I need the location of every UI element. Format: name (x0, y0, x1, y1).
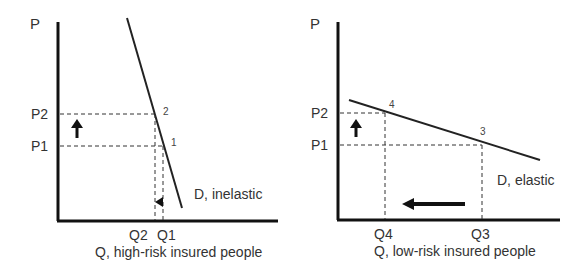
left-point-1-label: 1 (171, 137, 177, 149)
right-x-axis-label: Q, low-risk insured people (374, 243, 536, 259)
right-q3-label: Q3 (471, 226, 490, 242)
right-q4-label: Q4 (374, 226, 393, 242)
right-price-up-arrow-icon (350, 119, 362, 137)
right-panel-graphics (337, 22, 560, 220)
right-p1-label: P1 (311, 137, 328, 153)
right-quantity-left-arrow-icon (402, 198, 465, 210)
left-curve-label: D, inelastic (194, 186, 262, 202)
left-q1-label: Q1 (157, 227, 176, 243)
right-p2-label: P2 (311, 105, 328, 121)
left-price-up-arrow-icon (71, 119, 83, 138)
right-point-3-label: 3 (480, 126, 486, 138)
right-demand-curve (349, 100, 540, 160)
left-q2-label: Q2 (129, 227, 148, 243)
left-x-axis-label: Q, high-risk insured people (95, 244, 262, 260)
left-p1-label: P1 (31, 138, 48, 154)
left-y-axis-label: P (30, 16, 40, 32)
right-y-axis-label: P (310, 16, 320, 32)
left-quantity-left-arrow-icon (155, 197, 163, 207)
right-curve-label: D, elastic (497, 172, 555, 188)
diagram-canvas (0, 0, 584, 275)
left-point-2-label: 2 (163, 106, 169, 118)
right-point-4-label: 4 (389, 99, 395, 111)
left-p2-label: P2 (31, 106, 48, 122)
